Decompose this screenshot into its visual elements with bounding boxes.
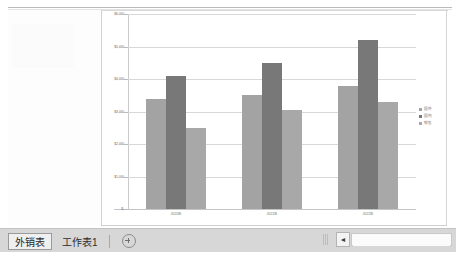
legend-item[interactable]: 销售 [419, 120, 445, 127]
axis-tick [124, 79, 128, 80]
legend-item[interactable]: 国内 [419, 113, 445, 120]
axis-tick [124, 209, 128, 210]
value-axis-tick-label: $5,000 [100, 45, 124, 49]
sheet-tab-divider [109, 235, 110, 248]
chart-bar[interactable] [242, 95, 262, 209]
chart-bar[interactable] [146, 99, 166, 210]
window-bottom-edge [0, 252, 456, 260]
sheet-top-rule [8, 7, 452, 8]
chart-bar[interactable] [358, 40, 378, 209]
horizontal-scrollbar[interactable] [351, 233, 452, 246]
chart-frame-bottom-edge [101, 225, 447, 226]
chart-bar[interactable] [338, 86, 358, 210]
gridline [128, 14, 416, 15]
chart-frame-right-edge [446, 10, 447, 226]
category-axis-line [114, 209, 416, 210]
value-axis-tick-label: $1,000 [100, 175, 124, 179]
value-axis-tick-label: $6,000 [100, 12, 124, 16]
chart-bar[interactable] [378, 102, 398, 209]
legend-item-label: 国外 [424, 107, 432, 112]
horizontal-scrollbar-thumb[interactable] [353, 235, 450, 246]
chart-bar[interactable] [282, 110, 302, 209]
axis-tick [124, 14, 128, 15]
legend-item-label: 国内 [424, 114, 432, 119]
chart-legend[interactable]: 国外国内销售 [419, 106, 445, 127]
axis-tick [124, 112, 128, 113]
category-axis-tick-label: 2021年 [242, 212, 302, 216]
worksheet-ghost-shading [12, 24, 74, 68]
sheet-tab-2[interactable]: 工作表1 [56, 233, 104, 250]
legend-swatch-icon [419, 115, 422, 118]
category-axis-tick-label: 2022年 [338, 212, 398, 216]
category-axis-tick-label: 2020年 [146, 212, 206, 216]
legend-swatch-icon [419, 108, 422, 111]
workbook-window: $6,000$5,000$4,000$3,000$2,000$1,000$- 2… [0, 0, 456, 260]
axis-tick [124, 144, 128, 145]
legend-item-label: 销售 [424, 121, 432, 126]
chart-bar[interactable] [166, 76, 186, 209]
value-axis-tick-label: $- [100, 207, 124, 211]
sheet-tab-1[interactable]: 外销表 [8, 233, 52, 250]
value-axis-tick-label: $4,000 [100, 77, 124, 81]
axis-tick [124, 177, 128, 178]
axis-tick [124, 47, 128, 48]
value-axis-tick-label: $3,000 [100, 110, 124, 114]
legend-swatch-icon [419, 122, 422, 125]
tab-bar-resize-grip[interactable] [323, 234, 329, 245]
add-sheet-icon[interactable] [122, 234, 136, 248]
chart-bar[interactable] [186, 128, 206, 209]
value-axis-labels: $6,000$5,000$4,000$3,000$2,000$1,000$- [100, 0, 124, 216]
value-axis-tick-label: $2,000 [100, 142, 124, 146]
scroll-left-button[interactable]: ◄ [336, 232, 350, 247]
legend-item[interactable]: 国外 [419, 106, 445, 113]
chart-bar[interactable] [262, 63, 282, 209]
